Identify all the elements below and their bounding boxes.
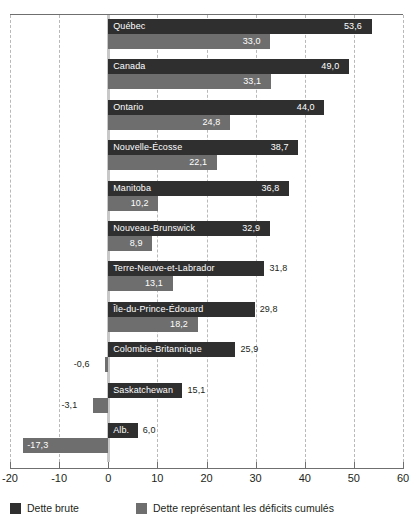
tick-label-20: 20 <box>200 472 212 484</box>
bar-deficit <box>108 276 172 291</box>
bar-group: Manitoba36,810,2 <box>0 181 420 211</box>
bar-group: Canada49,033,1 <box>0 59 420 89</box>
plot-area: Québec53,633,0Canada49,033,1Ontario44,02… <box>0 0 420 462</box>
bar-category-label: Saskatchewan <box>113 383 173 398</box>
tick-label-40: 40 <box>299 472 311 484</box>
bar-category-label: Terre-Neuve-et-Labrador <box>113 261 214 276</box>
bar-group: Québec53,633,0 <box>0 19 420 49</box>
legend-swatch-icon-gross <box>10 503 21 514</box>
bar-category-label: Alb. <box>113 423 129 438</box>
bar-value-label: 25,9 <box>240 342 258 357</box>
legend-swatch-icon-deficit <box>136 503 147 514</box>
bar-value-label: 33,1 <box>243 74 261 89</box>
bar-value-label: 13,1 <box>145 276 163 291</box>
bar-group: Ontario44,024,8 <box>0 100 420 130</box>
bar-category-label: Québec <box>113 19 145 34</box>
bar-value-label: 32,9 <box>242 221 260 236</box>
bar-group: Saskatchewan15,1-3,1 <box>0 383 420 413</box>
bar-deficit <box>105 357 108 372</box>
bar-group: Terre-Neuve-et-Labrador31,813,1 <box>0 261 420 291</box>
bar-value-label: 38,7 <box>271 140 289 155</box>
bar-group: Nouvelle-Écosse38,722,1 <box>0 140 420 170</box>
bar-value-label: -0,6 <box>74 357 90 372</box>
bar-category-label: Colombie-Britannique <box>113 342 202 357</box>
bar-value-label: 10,2 <box>131 196 149 211</box>
legend-label-gross: Dette brute <box>27 502 79 514</box>
bar-value-label: 18,2 <box>170 317 188 332</box>
bar-category-label: Ontario <box>113 100 143 115</box>
tick-label-60: 60 <box>397 472 409 484</box>
bar-value-label: 22,1 <box>189 155 207 170</box>
bar-group: Alb.6,0-17,3 <box>0 423 420 453</box>
bar-value-label: 53,6 <box>344 19 362 34</box>
bar-gross <box>108 19 371 34</box>
tick-label--10: -10 <box>51 472 67 484</box>
tick-60 <box>403 462 404 469</box>
bar-category-label: Nouveau-Brunswick <box>113 221 195 236</box>
bar-value-label: -3,1 <box>61 398 77 413</box>
bar-category-label: Nouvelle-Écosse <box>113 140 182 155</box>
tick-label-10: 10 <box>151 472 163 484</box>
tick-20 <box>207 462 208 469</box>
bar-value-label: 15,1 <box>187 383 205 398</box>
legend-item-deficit: Dette représentant les déficits cumulés <box>136 500 334 516</box>
bar-group: Colombie-Britannique25,9-0,6 <box>0 342 420 372</box>
tick-50 <box>354 462 355 469</box>
tick-label-50: 50 <box>348 472 360 484</box>
legend-item-gross: Dette brute <box>10 500 79 516</box>
tick-40 <box>305 462 306 469</box>
bar-value-label: 6,0 <box>143 423 156 438</box>
bar-category-label: Canada <box>113 59 145 74</box>
chart-legend: Dette brute Dette représentant les défic… <box>0 500 420 523</box>
bar-category-label: Île-du-Prince-Édouard <box>113 302 203 317</box>
bar-value-label: 44,0 <box>297 100 315 115</box>
bar-value-label: 33,0 <box>243 34 261 49</box>
tick-label-0: 0 <box>105 472 111 484</box>
tick-label--20: -20 <box>2 472 18 484</box>
bar-deficit <box>93 398 108 413</box>
bar-value-label: 24,8 <box>202 115 220 130</box>
legend-label-deficit: Dette représentant les déficits cumulés <box>153 502 334 514</box>
bar-value-label: 31,8 <box>269 261 287 276</box>
tick-30 <box>256 462 257 469</box>
tick--20 <box>10 462 11 469</box>
x-axis: -20-100102030405060 <box>0 462 420 492</box>
bar-group: Île-du-Prince-Édouard29,818,2 <box>0 302 420 332</box>
bar-value-label: -17,3 <box>27 438 48 453</box>
bar-category-label: Manitoba <box>113 181 151 196</box>
tick-label-30: 30 <box>250 472 262 484</box>
bar-group: Nouveau-Brunswick32,98,9 <box>0 221 420 251</box>
tick-0 <box>108 462 109 469</box>
tick-10 <box>157 462 158 469</box>
bar-chart: Québec53,633,0Canada49,033,1Ontario44,02… <box>0 0 420 523</box>
bar-value-label: 29,8 <box>260 302 278 317</box>
tick--10 <box>59 462 60 469</box>
bar-value-label: 8,9 <box>130 236 143 251</box>
bar-value-label: 49,0 <box>321 59 339 74</box>
bar-value-label: 36,8 <box>261 181 279 196</box>
